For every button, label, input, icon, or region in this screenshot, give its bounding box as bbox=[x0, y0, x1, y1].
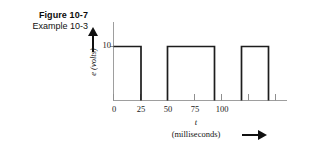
pulse-1-trace bbox=[114, 47, 142, 101]
right-arrow-icon bbox=[258, 130, 267, 140]
x-axis-variable-label: t bbox=[176, 117, 216, 127]
figure-container: Figure 10-7 Example 10-3 e (volts) 1 bbox=[0, 0, 309, 152]
x-axis-unit-label: (milliseconds) bbox=[146, 129, 246, 139]
x-tick-label-0: 0 bbox=[103, 104, 125, 114]
x-tick-label-100: 100 bbox=[211, 104, 233, 114]
right-arrow-shaft-icon bbox=[242, 134, 259, 136]
y-tick-label-10: 10 bbox=[97, 40, 111, 50]
x-tick-label-50: 50 bbox=[157, 104, 179, 114]
pulse-3-trace bbox=[242, 47, 269, 101]
pulse-2-trace bbox=[168, 47, 215, 101]
x-tick-label-75: 75 bbox=[184, 104, 206, 114]
x-tick-label-25: 25 bbox=[130, 104, 152, 114]
x-axis-ticks bbox=[114, 94, 276, 101]
